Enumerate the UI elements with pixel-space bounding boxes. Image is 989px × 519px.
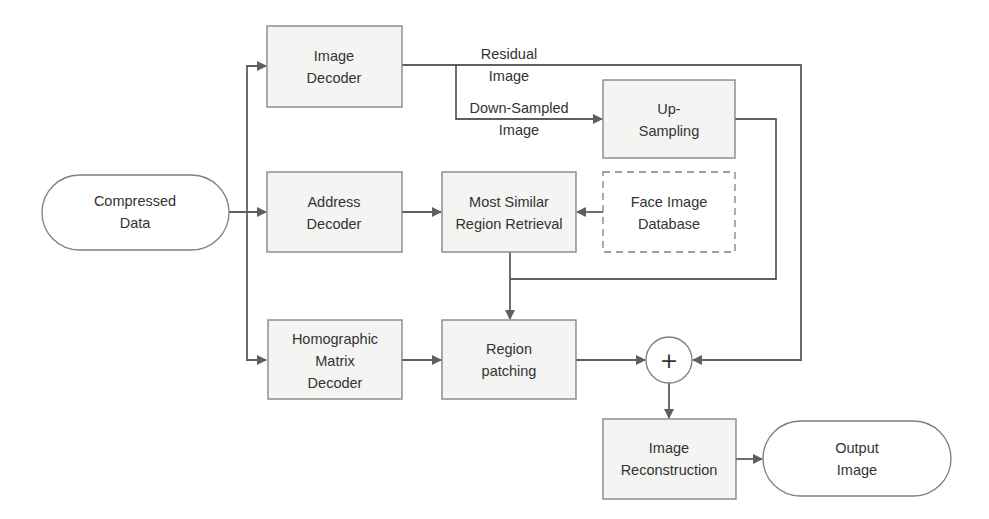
- node-homographic-matrix-decoder: Homographic Matrix Decoder: [268, 320, 402, 399]
- node-label: Matrix: [315, 353, 355, 369]
- node-sum-junction: +: [646, 337, 692, 383]
- node-label: Database: [638, 216, 700, 232]
- node-label: Homographic: [292, 331, 378, 347]
- node-most-similar-region-retrieval: Most Similar Region Retrieval: [442, 172, 576, 252]
- node-label: Region: [486, 341, 532, 357]
- plus-icon: +: [660, 348, 678, 373]
- edge-label: Image: [499, 122, 539, 138]
- flow-diagram: Compressed Data Image Decoder Address De…: [0, 0, 989, 519]
- node-label: patching: [482, 363, 537, 379]
- node-label: Region Retrieval: [455, 216, 562, 232]
- node-output-image: Output Image: [763, 421, 951, 496]
- node-label: Decoder: [307, 70, 362, 86]
- node-label: Output: [835, 440, 879, 456]
- node-label: Decoder: [308, 375, 363, 391]
- node-image-reconstruction: Image Reconstruction: [603, 419, 736, 499]
- node-label: Compressed: [94, 193, 176, 209]
- node-label: Sampling: [639, 123, 699, 139]
- node-label: Reconstruction: [621, 462, 718, 478]
- node-label: Most Similar: [469, 194, 549, 210]
- edge-label: Residual: [481, 46, 537, 62]
- edge-label: Down-Sampled: [469, 100, 568, 116]
- node-label: Decoder: [307, 216, 362, 232]
- node-face-image-database: Face Image Database: [603, 172, 735, 252]
- node-label: Up-: [657, 101, 681, 117]
- node-image-decoder: Image Decoder: [267, 26, 402, 107]
- edge-compressed-to-image-decoder: [247, 66, 266, 212]
- node-compressed-data: Compressed Data: [42, 175, 229, 250]
- node-label: Image: [837, 462, 877, 478]
- node-label: Image: [314, 48, 354, 64]
- edge-compressed-to-homographic: [247, 212, 266, 360]
- node-region-patching: Region patching: [442, 320, 576, 399]
- edge-label: Image: [489, 68, 529, 84]
- node-label: Address: [307, 194, 360, 210]
- node-label: Face Image: [631, 194, 708, 210]
- node-label: Data: [120, 215, 152, 231]
- node-address-decoder: Address Decoder: [267, 172, 402, 252]
- node-label: Image: [649, 440, 689, 456]
- node-up-sampling: Up- Sampling: [603, 80, 735, 158]
